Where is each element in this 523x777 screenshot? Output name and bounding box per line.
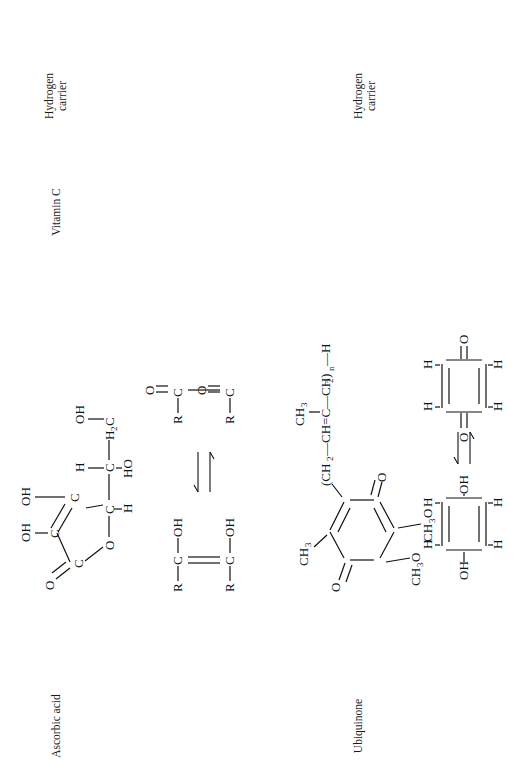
- atom-h-c5: H: [72, 463, 87, 472]
- svg-text:2: 2: [109, 427, 119, 432]
- atom-c2: C: [47, 529, 62, 538]
- atom-oh-enediol-2: OH: [222, 518, 237, 537]
- svg-text:—CH=C—CH: —CH=C—CH: [318, 378, 333, 457]
- atom-ho-c5: HO: [120, 459, 135, 478]
- atom-quinone-h-bl: H: [490, 402, 505, 411]
- hydrogen-carrier-2-line2: carrier: [365, 81, 377, 111]
- atom-c4: C: [102, 505, 117, 514]
- equilibrium-arrow-enediol: [194, 452, 214, 492]
- svg-text:2: 2: [325, 379, 335, 384]
- atom-quinol-h-bl: H: [490, 540, 505, 549]
- atom-quinone-o-right: O: [374, 473, 389, 482]
- atom-carbonyl-o: O: [42, 581, 57, 590]
- atom-quinol-h-tr: H: [420, 498, 435, 507]
- atom-quinone-h-tr: H: [420, 360, 435, 369]
- side-chain-methyl: CH 3: [292, 402, 309, 426]
- structure-quinone-equilibrium: OH OH H H H H: [418, 332, 518, 582]
- svg-text:—H: —H: [318, 344, 333, 367]
- atom-quinone-h-br: H: [490, 360, 505, 369]
- svg-text:CH: CH: [292, 408, 307, 426]
- label-hydrogen-carrier-2: Hydrogen carrier: [352, 51, 378, 141]
- atom-ring-o: O: [102, 541, 117, 550]
- svg-text:2: 2: [325, 457, 335, 462]
- atom-ring-methyl: CH 3: [296, 542, 313, 566]
- atom-quinol-oh-left: OH: [456, 561, 471, 580]
- atom-r3: R: [170, 415, 185, 424]
- svg-text:n: n: [326, 366, 336, 371]
- atom-quinol-h-tl: H: [420, 540, 435, 549]
- atom-quinol-h-br: H: [490, 498, 505, 507]
- atom-oh-c3: OH: [18, 487, 33, 506]
- atom-oh-c6: OH: [72, 405, 87, 424]
- atom-c3: C: [67, 493, 82, 502]
- atom-quinone-o-r: O: [456, 335, 471, 344]
- atom-c-keto-1: C: [170, 388, 185, 397]
- atom-quinone-h-tl: H: [420, 402, 435, 411]
- label-vitamin-c: Vitamin C: [50, 167, 63, 257]
- atom-quinone-o-left: O: [328, 583, 343, 592]
- label-ascorbic-acid: Ascorbic acid: [50, 681, 63, 771]
- label-hydrogen-carrier-1: Hydrogen carrier: [43, 51, 69, 141]
- atom-c1: C: [71, 559, 86, 568]
- atom-quinone-o-l: O: [456, 433, 471, 442]
- side-chain-isoprenoid: (CH 2 —CH=C—CH 2 ) n —H: [318, 344, 336, 486]
- hydrogen-carrier-2-line1: Hydrogen: [352, 73, 364, 119]
- atom-c-keto-2: C: [222, 388, 237, 397]
- structure-enediol-equilibrium: R C OH R C OH R C: [150, 377, 268, 592]
- label-ubiquinone: Ubiquinone: [352, 681, 365, 771]
- hydrogen-carrier-1-line2: carrier: [56, 81, 68, 111]
- atom-h-c4: H: [120, 504, 135, 513]
- structure-ascorbic-acid: C O C C C O OH OH H: [8, 377, 133, 592]
- structure-ubiquinone: O O CH 3 CH 3 O CH 3 O: [290, 322, 435, 592]
- atom-r1: R: [170, 583, 185, 592]
- atom-oh-c2: OH: [18, 523, 33, 542]
- svg-text:CH: CH: [296, 548, 311, 566]
- svg-text:3: 3: [303, 542, 313, 547]
- atom-c-enediol-1: C: [170, 556, 185, 565]
- atom-c-enediol-2: C: [222, 556, 237, 565]
- svg-text:H: H: [102, 431, 117, 440]
- atom-r4: R: [222, 415, 237, 424]
- rotated-canvas: Ascorbic acid C O C C C O OH: [0, 0, 523, 777]
- atom-c5: C: [102, 463, 117, 472]
- figure-page: Ascorbic acid C O C C C O OH: [0, 0, 523, 777]
- svg-text:(CH: (CH: [318, 464, 333, 486]
- atom-h2c: H 2 C: [102, 417, 119, 440]
- svg-text:): ): [318, 374, 333, 378]
- svg-text:C: C: [102, 417, 117, 426]
- hydrogen-carrier-1-line1: Hydrogen: [43, 73, 55, 119]
- svg-text:3: 3: [299, 402, 309, 407]
- atom-oh-enediol-1: OH: [170, 518, 185, 537]
- atom-r2: R: [222, 583, 237, 592]
- atom-quinol-oh-right: OH: [456, 475, 471, 494]
- atom-o-keto-1: O: [142, 386, 157, 395]
